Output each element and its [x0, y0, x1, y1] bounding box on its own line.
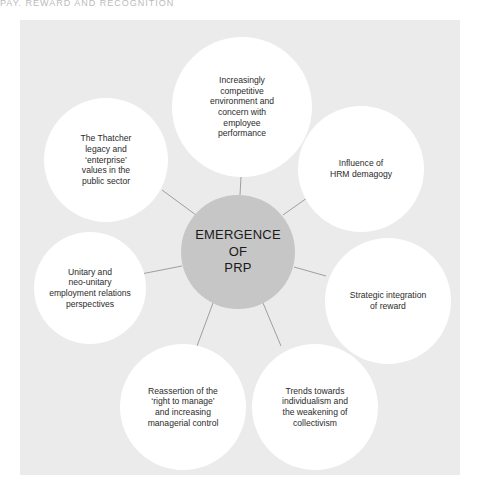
connector-right	[294, 267, 326, 276]
node-text-line: Increasingly	[210, 75, 274, 86]
center-label-line: OF	[195, 244, 281, 261]
node-text-line: performance	[210, 128, 274, 139]
node-text-line: Unitary and	[49, 267, 131, 278]
node-right-to-manage: Reassertion of the ‘right to manage’ and…	[120, 344, 246, 470]
node-text-line: employee	[210, 118, 274, 129]
connector-bottom-left	[197, 303, 213, 346]
node-text-line: HRM demagogy	[330, 169, 392, 180]
node-thatcher-legacy: The Thatcher legacy and ‘enterprise’ val…	[44, 98, 168, 222]
connector-left	[141, 266, 182, 274]
node-text-line: legacy and	[81, 144, 132, 155]
node-text-line: The Thatcher	[81, 133, 132, 144]
node-text-line: neo-unitary	[49, 277, 131, 288]
node-competitive-environment: Increasingly competitive environment and…	[172, 37, 312, 177]
node-text-line: Strategic integration	[350, 290, 426, 301]
node-text-line: Reassertion of the	[148, 386, 219, 397]
center-label-line: EMERGENCE	[195, 227, 281, 244]
node-text-line: concern with	[210, 107, 274, 118]
connector-upper-left	[162, 190, 196, 215]
node-text-line: employment relations	[49, 288, 131, 299]
node-text-line: of reward	[350, 301, 426, 312]
node-text-line: managerial control	[148, 418, 219, 429]
node-text-line: ‘right to manage’	[148, 396, 219, 407]
node-text-line: values in the	[81, 165, 132, 176]
node-individualism: Trends towards individualism and the wea…	[252, 344, 378, 470]
node-hrm-demagogy: Influence of HRM demagogy	[298, 106, 424, 232]
node-text-line: ‘enterprise’	[81, 155, 132, 166]
node-text-line: collectivism	[282, 418, 348, 429]
node-text-line: Influence of	[330, 158, 392, 169]
node-text-line: competitive	[210, 86, 274, 97]
node-text-line: public sector	[81, 176, 132, 187]
center-label-line: PRP	[195, 260, 281, 277]
node-strategic-integration: Strategic integration of reward	[325, 238, 451, 364]
node-text-line: environment and	[210, 96, 274, 107]
node-text-line: Trends towards	[282, 386, 348, 397]
node-unitary-perspectives: Unitary and neo-unitary employment relat…	[34, 232, 146, 344]
center-node-emergence-of-prp: EMERGENCE OF PRP	[181, 195, 295, 309]
node-text-line: perspectives	[49, 299, 131, 310]
node-text-line: and increasing	[148, 407, 219, 418]
node-text-line: individualism and	[282, 396, 348, 407]
connector-top	[240, 177, 241, 195]
connector-bottom-right	[263, 303, 281, 346]
node-text-line: the weakening of	[282, 407, 348, 418]
